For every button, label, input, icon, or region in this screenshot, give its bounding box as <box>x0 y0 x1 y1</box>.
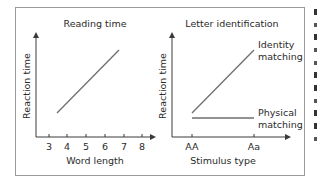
y-axis-label: Reaction time <box>21 53 32 119</box>
x-tick-label: 8 <box>139 141 145 152</box>
x-tick-label: 5 <box>83 141 89 152</box>
physical-label: Physical <box>258 107 297 118</box>
x-axis-label: Word length <box>66 155 124 166</box>
identity-label: matching <box>258 51 303 62</box>
x-tick-label: 3 <box>46 141 52 152</box>
x-tick-label: 4 <box>64 141 70 152</box>
figure-canvas: Reading time 3 4 5 6 7 8 Word length Rea… <box>0 0 324 181</box>
panel-title: Reading time <box>63 18 126 29</box>
physical-label: matching <box>258 119 303 130</box>
identity-matching-line <box>192 50 254 113</box>
x-tick-label: 7 <box>121 141 127 152</box>
y-axis-label: Reaction time <box>157 53 168 119</box>
x-axis-label: Stimulus type <box>190 155 256 166</box>
clipped-text-margin <box>314 9 324 159</box>
x-tick-label: AA <box>185 141 199 152</box>
x-tick-label: 6 <box>102 141 108 152</box>
panel-letter-identification: Letter identification AA Aa Stimulus typ… <box>157 18 303 166</box>
identity-label: Identity <box>258 39 295 50</box>
panel-title: Letter identification <box>185 18 278 29</box>
panel-reading-time: Reading time 3 4 5 6 7 8 Word length Rea… <box>21 18 153 166</box>
reading-time-line <box>57 50 119 113</box>
x-tick-label: Aa <box>248 141 260 152</box>
